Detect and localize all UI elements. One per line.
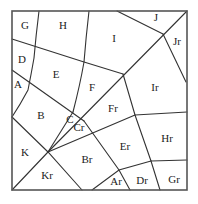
region-label-er: Er [120,140,131,152]
partition-diagram: GHIJJrDEAFIrBFrCCrKErHrBrKrArDrGr [0,0,198,204]
region-label-i: I [112,32,116,44]
region-label-h: H [59,19,67,31]
region-label-b: B [37,109,44,121]
boundary-hrbot [151,160,187,161]
region-label-jr: Jr [173,35,181,47]
region-label-g: G [21,19,29,31]
region-label-cr: Cr [74,121,85,133]
region-label-fr: Fr [108,102,118,114]
boundary-gd [12,39,123,74]
region-label-br: Br [82,153,93,165]
region-label-hr: Hr [161,132,173,144]
region-label-gr: Gr [168,173,180,185]
region-label-a: A [14,78,22,90]
region-label-kr: Kr [41,169,53,181]
region-label-dr: Dr [136,174,148,186]
region-label-j: J [154,11,159,23]
region-label-e: E [53,68,60,80]
region-label-ar: Ar [110,175,122,187]
region-label-k: K [21,146,29,158]
region-label-f: F [89,81,95,93]
diagram-canvas: GHIJJrDEAFIrBFrCCrKErHrBrKrArDrGr [0,0,198,204]
region-boundaries [12,11,187,190]
region-labels: GHIJJrDEAFIrBFrCCrKErHrBrKrArDrGr [14,11,181,187]
boundary-hrtop [135,112,187,115]
region-label-ir: Ir [151,81,159,93]
region-label-d: D [18,53,26,65]
